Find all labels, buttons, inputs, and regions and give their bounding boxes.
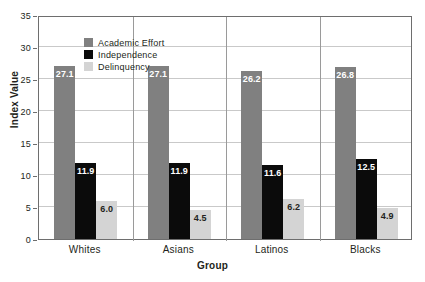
- bar: 4.5: [190, 210, 211, 239]
- y-axis-tick-label: 10: [21, 172, 31, 181]
- legend-item: Delinquency: [84, 61, 164, 72]
- bar-value-label: 26.2: [241, 74, 262, 84]
- x-axis-tick-label: Whites: [40, 244, 130, 255]
- group-separator: [226, 17, 227, 241]
- bar: 27.1: [54, 66, 75, 239]
- y-axis-tick-mark: [33, 240, 37, 241]
- y-axis-tick-mark: [33, 112, 37, 113]
- bar-value-label: 11.6: [262, 168, 283, 178]
- bar: 11.9: [75, 163, 96, 239]
- bar: 26.2: [241, 71, 262, 239]
- bar-value-label: 6.0: [96, 204, 117, 214]
- bar: 11.9: [169, 163, 190, 239]
- legend: Academic EffortIndependenceDelinquency: [84, 37, 164, 73]
- legend-swatch-icon: [84, 38, 93, 47]
- y-axis-tick-label: 35: [21, 12, 31, 21]
- y-axis-tick-label: 25: [21, 76, 31, 85]
- legend-item: Independence: [84, 49, 164, 60]
- bar-value-label: 6.2: [283, 202, 304, 212]
- legend-item-label: Academic Effort: [98, 38, 164, 48]
- bar-value-label: 11.9: [75, 166, 96, 176]
- y-axis-tick-mark: [33, 48, 37, 49]
- bar-value-label: 12.5: [356, 162, 377, 172]
- y-axis-tick-label: 20: [21, 108, 31, 117]
- bar-value-label: 26.8: [335, 70, 356, 80]
- y-axis-tick-label: 15: [21, 140, 31, 149]
- bar-value-label: 4.5: [190, 213, 211, 223]
- legend-swatch-icon: [84, 50, 93, 59]
- y-axis-tick-label: 5: [26, 204, 31, 213]
- x-axis-title: Group: [0, 260, 425, 271]
- bar: 6.2: [283, 199, 304, 239]
- bar: 6.0: [96, 201, 117, 239]
- y-axis-tick-mark: [33, 176, 37, 177]
- y-axis-tick-mark: [33, 208, 37, 209]
- legend-item-label: Independence: [98, 50, 157, 60]
- group-separator: [320, 17, 321, 241]
- bar: 11.6: [262, 165, 283, 239]
- bar-value-label: 27.1: [54, 69, 75, 79]
- y-axis-tick-label: 0: [26, 236, 31, 245]
- bar-chart: Index Value 05101520253035 27.111.96.027…: [0, 0, 425, 282]
- y-axis: 05101520253035: [0, 0, 38, 282]
- legend-swatch-icon: [84, 62, 93, 71]
- legend-item: Academic Effort: [84, 37, 164, 48]
- bar-value-label: 4.9: [377, 211, 398, 221]
- legend-item-label: Delinquency: [98, 62, 150, 72]
- x-axis-tick-label: Asians: [133, 244, 223, 255]
- y-axis-tick-label: 30: [21, 44, 31, 53]
- y-axis-tick-mark: [33, 16, 37, 17]
- bar-value-label: 11.9: [169, 166, 190, 176]
- bar: 27.1: [148, 66, 169, 239]
- bar: 4.9: [377, 208, 398, 239]
- x-axis-tick-label: Blacks: [320, 244, 410, 255]
- y-axis-tick-mark: [33, 80, 37, 81]
- y-axis-tick-mark: [33, 144, 37, 145]
- bar: 12.5: [356, 159, 377, 239]
- plot-area: 27.111.96.027.111.94.526.211.66.226.812.…: [38, 16, 412, 240]
- x-axis-tick-label: Latinos: [227, 244, 317, 255]
- bar: 26.8: [335, 67, 356, 239]
